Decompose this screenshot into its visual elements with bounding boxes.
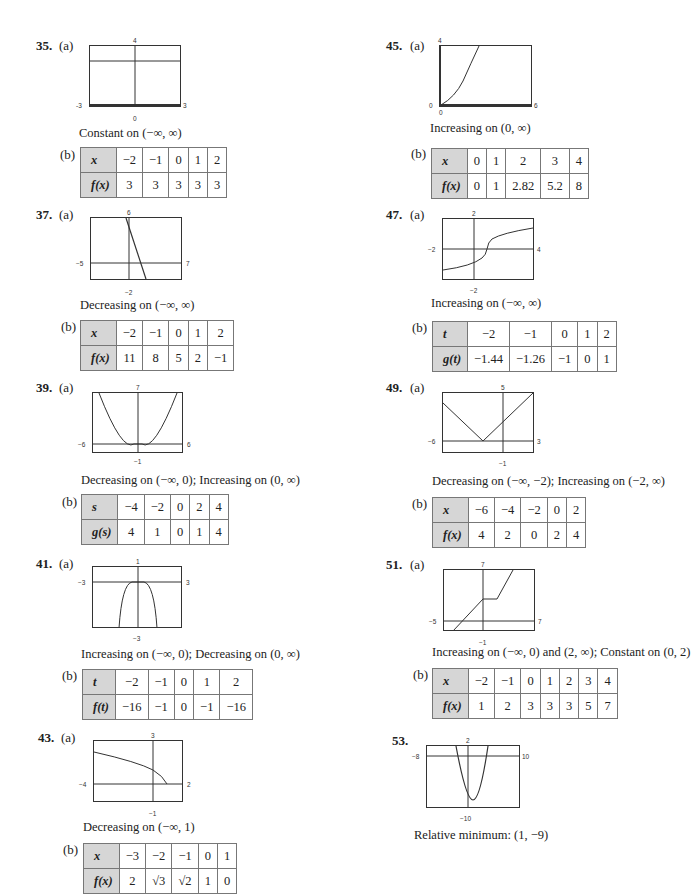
ymin-label: −2	[125, 289, 133, 296]
table-cell: 0	[521, 669, 540, 694]
xmin-label: −4	[79, 781, 87, 788]
table-cell: 5	[579, 694, 598, 719]
table-cell: 3	[207, 173, 226, 198]
table-cell: −4	[495, 498, 521, 523]
xmin-label: −8	[412, 753, 420, 760]
description: Increasing on (−∞, 0) and (2, ∞); Consta…	[432, 645, 691, 660]
xmax-label: 10	[522, 753, 530, 760]
problem-number: 43.	[38, 730, 54, 746]
table-cell: 4	[209, 495, 228, 520]
table-cell: −4	[118, 495, 144, 520]
graph-53: 2 −10 −8 10	[426, 745, 520, 808]
table-cell: 1	[578, 322, 597, 347]
table-cell: 2	[495, 694, 521, 719]
xmin-label: −2	[428, 246, 436, 253]
table-cell: 0	[578, 347, 597, 372]
part-b-label: (b)	[411, 146, 426, 162]
table-cell: 7	[598, 694, 617, 719]
table-header-y: f(x)	[84, 869, 120, 894]
graph-45: 4 0 0 6	[439, 45, 532, 107]
part-b-label: (b)	[62, 494, 77, 510]
table-cell: −3	[119, 844, 145, 869]
xmin-label: −5	[429, 618, 437, 625]
table-cell: 2	[220, 670, 253, 695]
table-cell: 1	[487, 174, 506, 199]
ymin-label: −1	[499, 460, 507, 467]
ymax-label: 5	[501, 384, 505, 391]
table-cell: 4	[118, 520, 144, 545]
value-table-37: x −2−1012 f(x) 11852−1	[80, 320, 234, 371]
ymax-label: 3	[151, 732, 155, 739]
table-header-x: s	[82, 495, 118, 520]
table-header-x: x	[432, 149, 468, 174]
description: Decreasing on (−∞, 0); Increasing on (0,…	[81, 473, 300, 488]
table-cell: 1	[597, 347, 616, 372]
table-cell: 8	[143, 346, 169, 371]
table-cell: 1	[188, 148, 207, 173]
table-header-y: f(x)	[81, 173, 117, 198]
table-cell: 3	[143, 173, 169, 198]
table-cell: −1	[148, 695, 174, 720]
part-a-label: (a)	[410, 380, 424, 396]
ymax-label: 7	[136, 384, 140, 391]
problem-number: 49.	[386, 380, 402, 396]
table-cell: −16	[220, 695, 253, 720]
table-cell: 8	[569, 174, 588, 199]
table-cell: 1	[198, 869, 217, 894]
table-cell: 2	[495, 523, 521, 548]
xmax-label: 6	[187, 441, 191, 448]
problem-number: 53.	[392, 733, 408, 749]
table-cell: 1	[540, 669, 559, 694]
ymin-label: 0	[429, 102, 433, 109]
table-cell: 0	[217, 869, 236, 894]
part-b-label: (b)	[412, 496, 427, 512]
table-header-y: g(s)	[82, 520, 118, 545]
description: Relative minimum: (1, −9)	[414, 828, 548, 843]
table-cell: −2	[468, 669, 494, 694]
part-b-label: (b)	[63, 842, 78, 858]
table-header-y: f(x)	[81, 346, 117, 371]
table-cell: 5	[169, 346, 188, 371]
table-cell: 3	[521, 694, 540, 719]
table-cell: −2	[521, 498, 547, 523]
value-table-45: x 01234 f(x) 012.825.28	[431, 148, 589, 199]
table-cell: 3	[116, 173, 142, 198]
problem-number: 39.	[36, 380, 52, 396]
table-cell: 3	[559, 694, 578, 719]
ymin-label: 0	[133, 115, 137, 122]
table-cell: 2	[188, 346, 207, 371]
table-cell: 0	[547, 498, 566, 523]
table-cell: 4	[566, 523, 585, 548]
ymax-label: 7	[481, 561, 485, 568]
part-a-label: (a)	[61, 730, 75, 746]
table-cell: −2	[116, 321, 142, 346]
part-b-label: (b)	[412, 320, 427, 336]
problem-number: 45.	[386, 38, 402, 54]
xmax-label: 3	[183, 102, 187, 109]
table-cell: 2	[597, 322, 616, 347]
description: Increasing on (0, ∞)	[430, 121, 531, 136]
table-header-x: x	[81, 321, 117, 346]
value-table-49: x −6−4−202 f(x) 42024	[432, 497, 586, 548]
table-cell: 3	[188, 173, 207, 198]
table-cell: 1	[188, 321, 207, 346]
table-cell: 5.2	[541, 174, 570, 199]
table-cell: −2	[146, 844, 172, 869]
table-cell: 3	[540, 694, 559, 719]
graph-41: 1 −3 −3 3	[92, 566, 182, 628]
table-cell: 2	[547, 523, 566, 548]
table-cell: 2	[566, 498, 585, 523]
graph-43: 3 −1 −4 2	[93, 740, 183, 802]
table-cell: 1	[194, 670, 220, 695]
table-cell: 1	[217, 844, 236, 869]
table-cell: 1	[190, 520, 209, 545]
table-cell: −1	[143, 148, 169, 173]
part-a-label: (a)	[59, 207, 73, 223]
description: Increasing on (−∞, ∞)	[431, 296, 541, 311]
table-cell: −2	[116, 148, 142, 173]
xmax-label: 6	[534, 102, 538, 109]
table-cell: √3	[146, 869, 172, 894]
table-cell: 3	[541, 149, 570, 174]
xmax-label: 7	[186, 260, 190, 267]
problem-number: 47.	[386, 207, 402, 223]
